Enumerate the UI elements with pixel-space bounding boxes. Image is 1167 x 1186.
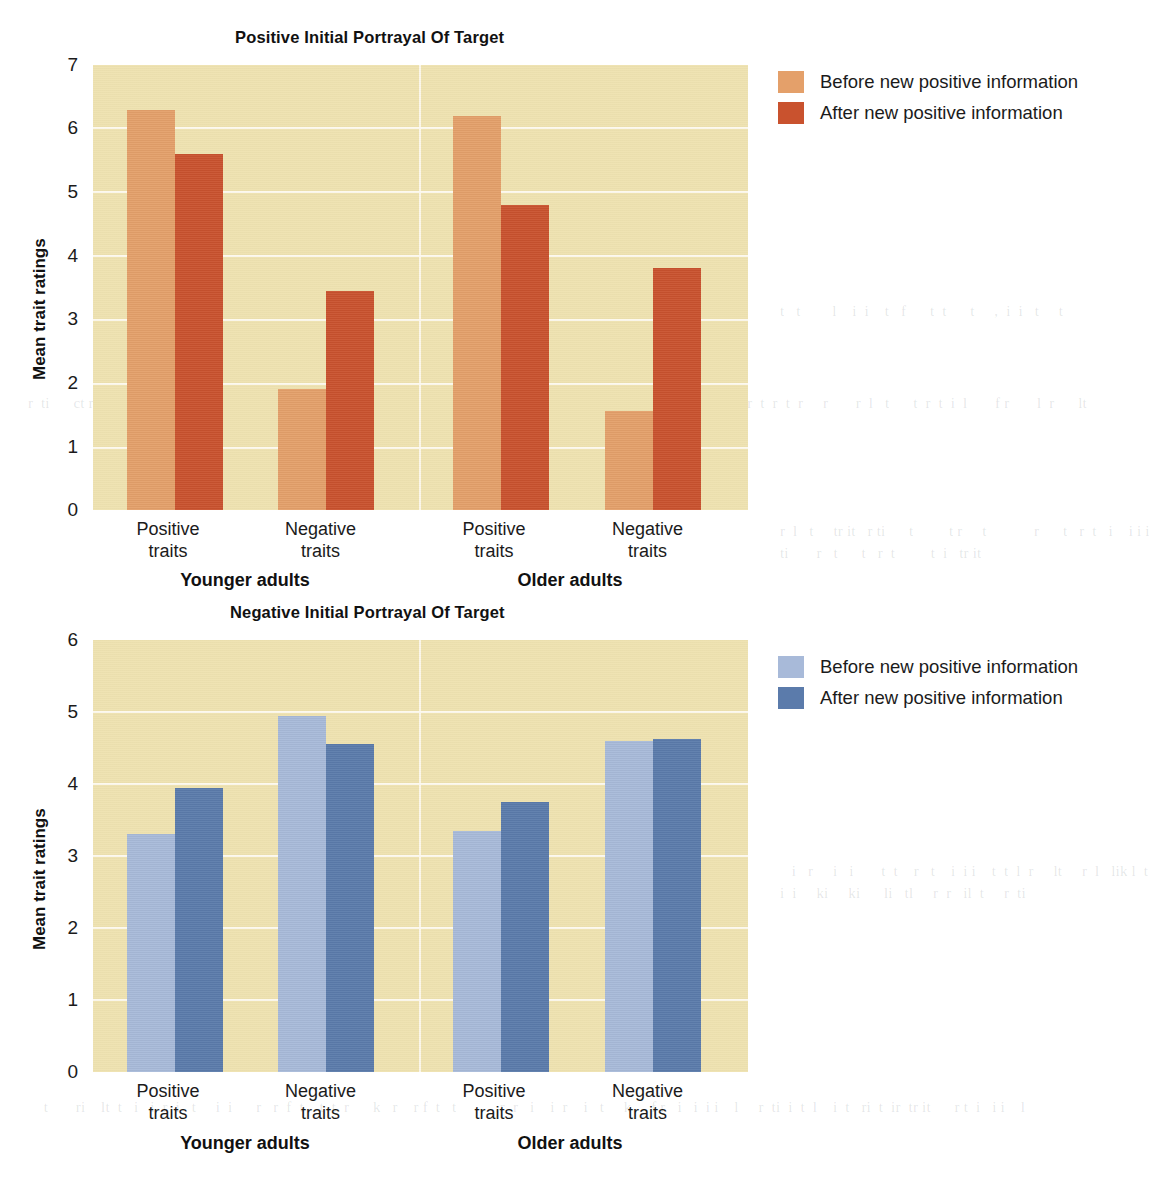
chart-2-xtick-younger-positive-line1: Positive — [136, 1081, 199, 1101]
chart-2-title: Negative Initial Portrayal Of Target — [230, 603, 505, 622]
chart-2-xtick-older-positive-line2: traits — [444, 1102, 544, 1124]
chart-2-bar-younger-negative-before — [278, 716, 326, 1072]
chart-2-group-label-older: Older adults — [485, 1133, 655, 1154]
chart-2-xtick-older-positive-line1: Positive — [462, 1081, 525, 1101]
chart-2-group-label-younger: Younger adults — [150, 1133, 340, 1154]
chart-1-bar-younger-positive-before — [127, 110, 175, 510]
chart-2-legend-item-before: Before new positive information — [778, 655, 1078, 679]
chart-2-xtick-younger-negative: Negative traits — [268, 1080, 373, 1124]
chart-1-bar-younger-positive-after — [175, 154, 223, 510]
chart-2-ytick-1: 1 — [38, 989, 78, 1011]
chart-1-bar-older-positive-before — [453, 116, 501, 510]
chart-2-bar-older-negative-before — [605, 741, 653, 1072]
chart-2-ytick-3: 3 — [38, 845, 78, 867]
chart-2-legend-item-after: After new positive information — [778, 686, 1078, 710]
chart-2-legend: Before new positive information After ne… — [778, 655, 1078, 717]
chart-2-bar-younger-positive-before — [127, 834, 175, 1072]
chart-2-group-separator — [419, 640, 421, 1072]
chart-2-xtick-older-negative-line2: traits — [595, 1102, 700, 1124]
chart-2-xtick-older-negative-line1: Negative — [612, 1081, 683, 1101]
chart-2-xtick-older-negative: Negative traits — [595, 1080, 700, 1124]
chart-2-legend-swatch-before — [778, 656, 804, 678]
chart-2-ytick-4: 4 — [38, 773, 78, 795]
chart-2-legend-label-after: After new positive information — [820, 687, 1063, 709]
chart-2-bar-older-positive-after — [501, 802, 549, 1072]
chart-2-bar-older-negative-after — [653, 739, 701, 1072]
chart-2-bar-younger-negative-after — [326, 744, 374, 1072]
chart-1-bar-older-negative-after — [653, 268, 701, 510]
chart-2-xtick-younger-negative-line2: traits — [268, 1102, 373, 1124]
chart-1-bar-older-positive-after — [501, 205, 549, 510]
chart-2-legend-label-before: Before new positive information — [820, 656, 1078, 678]
chart-1-bar-older-negative-before — [605, 411, 653, 510]
chart-2-xtick-older-positive: Positive traits — [444, 1080, 544, 1124]
chart-2-xtick-younger-negative-line1: Negative — [285, 1081, 356, 1101]
chart-2-legend-swatch-after — [778, 687, 804, 709]
chart-2-ytick-5: 5 — [38, 701, 78, 723]
chart-1-bar-younger-negative-before — [278, 389, 326, 510]
chart-1-bar-younger-negative-after — [326, 291, 374, 510]
chart-2-xtick-younger-positive: Positive traits — [118, 1080, 218, 1124]
chart-2-xtick-younger-positive-line2: traits — [118, 1102, 218, 1124]
chart-2-ytick-6: 6 — [38, 629, 78, 651]
chart-2-ytick-2: 2 — [38, 917, 78, 939]
chart-2-bar-older-positive-before — [453, 831, 501, 1072]
chart-2-bar-younger-positive-after — [175, 788, 223, 1072]
chart-2-ytick-0: 0 — [38, 1061, 78, 1083]
chart-2-plot-area — [93, 640, 748, 1072]
